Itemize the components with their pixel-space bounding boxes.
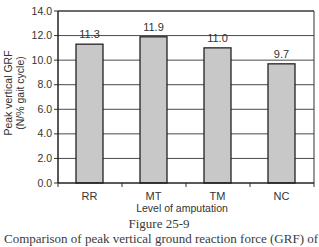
- x-tick-labels: RRMTTMNC: [82, 190, 290, 202]
- y-tick-label: 0.0: [37, 177, 52, 189]
- y-tick-label: 8.0: [37, 78, 52, 90]
- bar-rr: [76, 44, 103, 183]
- x-tick-label-nc: NC: [274, 190, 290, 202]
- y-tick-label: 2.0: [37, 152, 52, 164]
- bar-tm: [204, 48, 231, 183]
- data-labels: 11.311.911.09.7: [79, 21, 289, 60]
- y-tick-label: 12.0: [32, 29, 53, 41]
- bar-nc: [268, 64, 295, 183]
- y-tick-labels: 0.02.04.06.08.010.012.014.0: [32, 5, 53, 189]
- y-tick-label: 4.0: [37, 127, 52, 139]
- x-tick-label-rr: RR: [82, 190, 98, 202]
- data-label-nc: 9.7: [274, 48, 289, 60]
- y-tick-label: 6.0: [37, 103, 52, 115]
- bars: [76, 37, 295, 183]
- y-axis-title-line-1: Peak vertical GRF: [2, 50, 14, 135]
- x-tick-label-mt: MT: [146, 190, 162, 202]
- data-label-rr: 11.3: [79, 28, 100, 40]
- data-label-mt: 11.9: [143, 21, 164, 33]
- y-tick-label: 14.0: [32, 5, 53, 17]
- figure-number: Figure 25-9: [0, 216, 318, 232]
- x-axis-title: Level of amputation: [136, 202, 228, 214]
- data-label-tm: 11.0: [207, 32, 228, 44]
- y-axis-title-line-2: (N/% gait cycle): [14, 56, 26, 130]
- bar-chart: 0.02.04.06.08.010.012.014.0 RRMTTMNC 11.…: [0, 0, 318, 215]
- figure-caption: Comparison of peak vertical ground react…: [4, 231, 318, 247]
- bar-mt: [140, 37, 167, 183]
- x-tick-label-tm: TM: [210, 190, 226, 202]
- y-tick-label: 10.0: [32, 54, 53, 66]
